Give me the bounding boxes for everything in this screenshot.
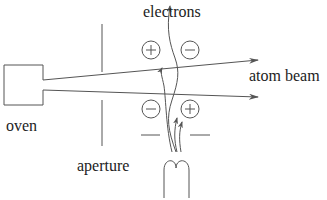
electrons-label: electrons [143, 4, 201, 20]
electron-path-main [168, 6, 177, 152]
plus-charge-icon [181, 100, 199, 118]
electron-path-short-1 [175, 118, 177, 152]
atom-beam-lower-line [43, 90, 258, 97]
minus-charge-icon [142, 100, 160, 118]
oven-box [4, 65, 43, 105]
plus-charge-icon [142, 41, 160, 59]
minus-charge-icon [181, 41, 199, 59]
electron-atom-beam-diagram: electrons atom beam oven aperture [0, 0, 327, 200]
oven-label: oven [6, 118, 37, 134]
filament-icon [164, 161, 189, 198]
diagram-drawing [0, 0, 327, 200]
atom-beam-label: atom beam [249, 68, 320, 84]
aperture-label: aperture [77, 158, 129, 174]
electron-path-short-2 [180, 122, 182, 152]
atom-beam-upper-line [43, 60, 258, 80]
electron-path-deflected-upper [161, 68, 172, 152]
